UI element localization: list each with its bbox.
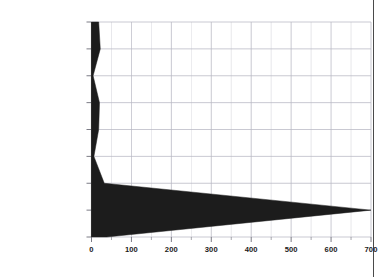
- chart-figure: ServicesFin, Ins, Real Est.Retail TradeW…: [0, 0, 382, 277]
- x-tick-label-200: 200: [165, 246, 178, 254]
- x-tick-label-600: 600: [325, 246, 338, 254]
- x-tick-label-0: 0: [89, 246, 93, 254]
- x-tick-label-500: 500: [285, 246, 298, 254]
- x-tick-label-300: 300: [205, 246, 218, 254]
- x-tick-label-700: 700: [365, 246, 378, 254]
- x-tick-label-400: 400: [245, 246, 258, 254]
- x-tick-label-100: 100: [125, 246, 138, 254]
- x-axis-tick-labels: 0100200300400500600700: [0, 0, 382, 277]
